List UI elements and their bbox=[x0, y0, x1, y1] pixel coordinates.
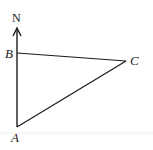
point-c-label: C bbox=[130, 53, 139, 68]
point-b-label: B bbox=[5, 46, 13, 61]
point-a-label: A bbox=[10, 130, 19, 145]
north-label: N bbox=[12, 11, 21, 25]
segment-ca bbox=[17, 61, 126, 127]
segment-bc bbox=[17, 53, 126, 61]
triangle-diagram: N B C A bbox=[0, 0, 153, 150]
